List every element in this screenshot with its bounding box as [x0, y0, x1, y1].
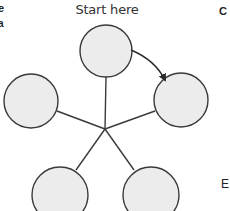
node-bottom-left: [32, 167, 88, 211]
start-here-label: Start here: [74, 2, 140, 17]
cropped-text-right-e: E: [221, 177, 229, 191]
spoke-bottom-right: [105, 129, 134, 170]
node-left: [4, 74, 58, 128]
cropped-text-right-c: C: [219, 5, 227, 17]
spoke-top: [105, 77, 106, 129]
star-cycle-diagram: [0, 0, 230, 211]
spokes: [57, 77, 155, 170]
node-top: [80, 25, 132, 77]
spoke-bottom-left: [76, 129, 105, 170]
node-right: [154, 73, 208, 127]
spoke-left: [57, 111, 105, 129]
cropped-text-left-1: e: [0, 2, 4, 14]
cropped-text-left-2: a: [0, 18, 4, 29]
cycle-arrow: [131, 50, 165, 80]
node-bottom-right: [123, 167, 179, 211]
spoke-right: [105, 111, 155, 129]
